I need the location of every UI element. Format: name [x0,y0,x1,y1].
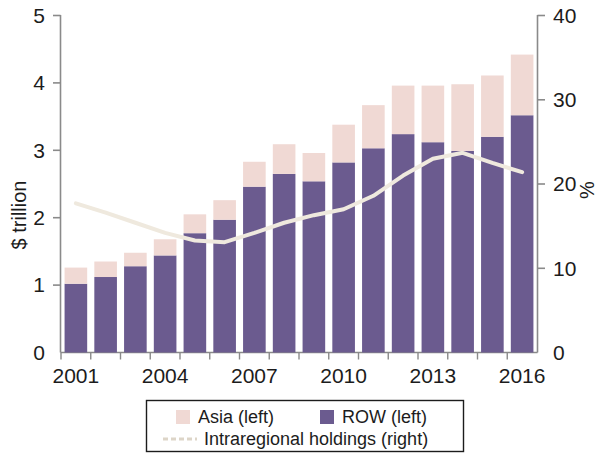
legend-label-row: ROW (left) [342,407,427,427]
bar-group [213,200,236,352]
bar-segment-row [511,115,534,352]
bar-group [303,153,326,353]
bar-segment-asia [422,86,445,143]
bar-segment-asia [481,75,504,136]
bar-segment-row [124,266,147,352]
left-axis-title: $ trillion [8,181,30,250]
bar-segment-row [451,151,474,353]
bar-segment-asia [243,162,266,187]
legend-label-asia: Asia (left) [198,407,274,427]
xtick-label-2004: 2004 [142,364,189,387]
legend-label-intraregional: Intraregional holdings (right) [204,429,428,449]
bar-segment-row [362,148,385,352]
ytick-label-3: 3 [33,139,45,162]
bar-group [154,239,177,352]
xtick-label-2001: 2001 [53,364,100,387]
bar-segment-row [184,233,207,352]
bar-segment-asia [303,153,326,181]
xtick-label-2013: 2013 [410,364,457,387]
bar-segment-row [154,255,177,352]
ytick-label-1: 1 [33,273,45,296]
bar-group [273,144,296,352]
ytick-label-4: 4 [33,71,45,94]
bar-group [392,86,415,353]
bar-segment-asia [511,55,534,116]
bar-group [94,262,117,353]
bar-segment-row [332,162,355,352]
y2tick-label-20: 20 [553,172,576,195]
bar-group [422,86,445,353]
bar-segment-row [273,174,296,353]
bar-segment-asia [451,84,474,151]
chart-figure: 5 4 3 2 1 0 40 30 20 10 0 $ trillion % [0,0,605,454]
bar-segment-row [243,187,266,353]
bar-segment-asia [65,268,88,284]
bar-segment-row [422,142,445,352]
bar-segment-row [65,284,88,353]
bar-segment-asia [362,105,385,148]
ytick-label-0: 0 [33,341,45,364]
bar-segment-asia [94,262,117,278]
chart-canvas: 5 4 3 2 1 0 40 30 20 10 0 $ trillion % [0,0,605,454]
xtick-label-2016: 2016 [499,364,546,387]
bar-segment-asia [213,200,236,220]
asia-swatch [176,410,190,424]
bar-segment-row [392,134,415,352]
bar-group [511,55,534,353]
bar-segment-row [94,277,117,352]
bar-segment-asia [392,86,415,135]
bar-group [243,162,266,353]
y2tick-label-0: 0 [553,341,565,364]
bar-segment-asia [273,144,296,174]
ytick-label-5: 5 [33,4,45,27]
y2tick-label-40: 40 [553,4,576,27]
right-axis-title: % [576,181,598,199]
bar-group [124,253,147,353]
xtick-label-2010: 2010 [320,364,367,387]
y2tick-label-10: 10 [553,257,576,280]
bar-segment-asia [184,214,207,233]
y2tick-label-30: 30 [553,88,576,111]
bar-segment-asia [332,125,355,163]
bar-group [451,84,474,352]
bar-group [332,125,355,353]
bar-group [481,75,504,352]
xtick-label-2007: 2007 [231,364,278,387]
bar-group [184,214,207,352]
row-swatch [320,410,334,424]
bar-group [362,105,385,352]
bar-segment-row [481,137,504,353]
bar-segment-row [303,181,326,352]
bar-segment-asia [154,239,177,255]
bar-segment-asia [124,253,147,266]
ytick-label-2: 2 [33,206,45,229]
bar-group [65,268,88,353]
